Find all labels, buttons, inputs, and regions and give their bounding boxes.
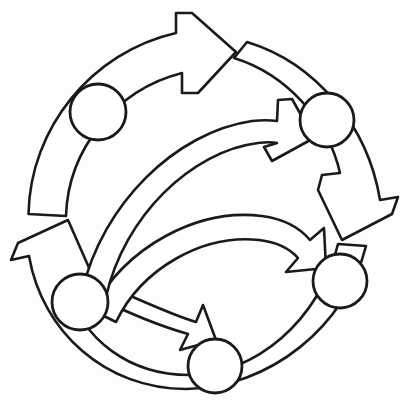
- outer-arrow-top[interactable]: [29, 13, 237, 216]
- node-bottom[interactable]: [188, 339, 242, 393]
- node-lower-right[interactable]: [313, 254, 367, 308]
- inner-arrows-group: [82, 99, 326, 350]
- cycle-diagram-svg: [0, 0, 410, 420]
- cycle-diagram-canvas: Cyclic process diagram: [0, 0, 410, 420]
- node-upper-right[interactable]: [300, 93, 354, 147]
- node-upper-left[interactable]: [70, 84, 126, 140]
- node-lower-left[interactable]: [52, 274, 108, 330]
